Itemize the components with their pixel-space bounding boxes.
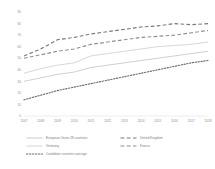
plot-svg: 9080706050403020100200720082009201020112… xyxy=(0,0,215,134)
legend-item-germany: Germany xyxy=(26,144,59,148)
legend-label-united-kingdom: United Kingdom xyxy=(140,136,163,140)
x-axis-tick-label: 2010 xyxy=(71,119,78,123)
x-axis-tick-label: 2012 xyxy=(104,119,111,123)
x-axis-tick-label: 2018 xyxy=(205,119,212,123)
x-axis-tick-label: 2009 xyxy=(54,119,61,123)
y-axis-tick-label: 60 xyxy=(18,45,22,49)
legend-label-germany: Germany xyxy=(46,144,59,148)
legend-item-eu28: European Union 28 countries xyxy=(26,136,87,140)
legend-item-france: France xyxy=(120,144,150,148)
series-line xyxy=(24,42,208,73)
legend-swatch-united-kingdom xyxy=(120,136,137,140)
legend-swatch-germany xyxy=(26,144,43,148)
x-axis-tick-label: 2008 xyxy=(37,119,44,123)
series-line xyxy=(24,30,208,58)
legend-item-candidate-countries-average: Candidate countries average xyxy=(26,152,87,156)
x-axis-tick-label: 2017 xyxy=(188,119,195,123)
y-axis-tick-label: 40 xyxy=(18,68,22,72)
legend-label-france: France xyxy=(140,144,150,148)
x-axis-tick-label: 2013 xyxy=(121,119,128,123)
y-axis-tick-label: 80 xyxy=(18,22,22,26)
legend-swatch-france xyxy=(120,144,137,148)
x-axis-tick-label: 2016 xyxy=(171,119,178,123)
y-axis-tick-label: 30 xyxy=(18,80,22,84)
plot-area: 9080706050403020100200720082009201020112… xyxy=(0,0,215,134)
line-chart: 9080706050403020100200720082009201020112… xyxy=(0,0,215,169)
y-axis-tick-label: 70 xyxy=(18,33,22,37)
legend-swatch-eu28 xyxy=(26,136,43,140)
chart-legend: European Union 28 countries United Kingd… xyxy=(0,132,215,169)
y-axis-tick-label: 10 xyxy=(18,103,22,107)
x-axis-tick-label: 2015 xyxy=(154,119,161,123)
y-axis-tick-label: 50 xyxy=(18,56,22,60)
y-axis-tick-label: 0 xyxy=(19,114,21,118)
x-axis-tick-label: 2007 xyxy=(21,119,28,123)
legend-label-eu28: European Union 28 countries xyxy=(46,136,87,140)
series-line xyxy=(24,24,208,56)
x-axis-tick-label: 2014 xyxy=(138,119,145,123)
x-axis-tick-label: 2011 xyxy=(88,119,95,123)
legend-label-candidate-countries-average: Candidate countries average xyxy=(46,152,87,156)
y-axis-tick-label: 20 xyxy=(18,91,22,95)
legend-item-united-kingdom: United Kingdom xyxy=(120,136,163,140)
legend-swatch-candidate-countries-average xyxy=(26,152,43,156)
y-axis-tick-label: 90 xyxy=(18,10,22,14)
